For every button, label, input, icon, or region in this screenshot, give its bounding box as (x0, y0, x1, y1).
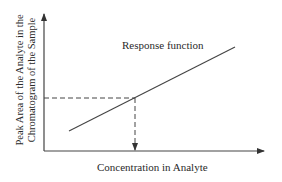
x-axis-label: Concentration in Analyte (97, 161, 208, 173)
calibration-diagram: Response function Concentration in Analy… (0, 0, 282, 182)
response-function-label: Response function (122, 39, 204, 51)
y-axis-label-line2: Chromatogram of the Sample (26, 17, 37, 142)
y-axis-label-line1: Peak Area of the Analyte in the (14, 14, 25, 146)
response-function-line (69, 47, 235, 131)
